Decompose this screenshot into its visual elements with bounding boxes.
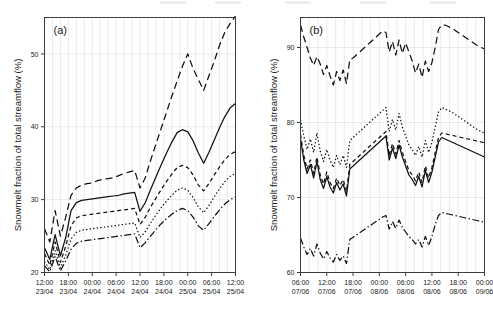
x-tick-label-date: 24/04 bbox=[107, 288, 125, 295]
x-tick-label-time: 00:00 bbox=[476, 279, 493, 286]
x-tick-label-date: 24/04 bbox=[131, 288, 149, 295]
x-tick-label-date: 25/04 bbox=[227, 288, 245, 295]
x-tick-label-time: 12:00 bbox=[36, 279, 54, 286]
y-tick-label: 70 bbox=[287, 194, 295, 201]
x-tick-label-time: 12:00 bbox=[318, 279, 336, 286]
x-tick-label-date: 24/04 bbox=[155, 288, 173, 295]
y-axis-title: Snowmelt fraction of total streamflow (%… bbox=[268, 59, 279, 232]
x-tick-label-date: 08/06 bbox=[449, 288, 467, 295]
panel-tag-b: (b) bbox=[310, 24, 323, 36]
x-tick-label-time: 06:00 bbox=[397, 279, 415, 286]
y-tick-label: 50 bbox=[31, 51, 39, 58]
x-tick-label-date: 24/04 bbox=[83, 288, 101, 295]
x-tick-label-time: 00:00 bbox=[371, 279, 389, 286]
x-tick-label-time: 18:00 bbox=[60, 279, 78, 286]
x-tick-label-time: 06:00 bbox=[203, 279, 221, 286]
x-tick-label-time: 18:00 bbox=[344, 279, 362, 286]
panel-tag-a: (a) bbox=[54, 24, 67, 36]
x-tick-label-date: 23/04 bbox=[36, 288, 54, 295]
y-tick-label: 60 bbox=[287, 269, 295, 276]
x-tick-label-date: 09/06 bbox=[476, 288, 493, 295]
x-tick-label-time: 12:00 bbox=[227, 279, 245, 286]
x-tick-label-date: 08/06 bbox=[371, 288, 389, 295]
y-tick-label: 20 bbox=[31, 269, 39, 276]
x-tick-label-date: 07/06 bbox=[292, 288, 310, 295]
y-tick-label: 80 bbox=[287, 119, 295, 126]
x-tick-label-time: 06:00 bbox=[292, 279, 310, 286]
x-tick-label-time: 18:00 bbox=[155, 279, 173, 286]
x-tick-label-date: 07/06 bbox=[344, 288, 362, 295]
two-panel-line-chart: 2030405012:0023/0418:0023/0400:0024/0406… bbox=[0, 0, 493, 314]
x-tick-label-time: 12:00 bbox=[423, 279, 441, 286]
x-tick-label-time: 12:00 bbox=[131, 279, 149, 286]
y-tick-label: 40 bbox=[31, 123, 39, 130]
x-tick-label-time: 00:00 bbox=[179, 279, 197, 286]
x-tick-label-date: 25/04 bbox=[203, 288, 221, 295]
x-tick-label-time: 18:00 bbox=[449, 279, 467, 286]
x-tick-label-date: 08/06 bbox=[397, 288, 415, 295]
y-axis-title: Snowmelt fraction of total streamflow (%… bbox=[12, 59, 23, 232]
y-tick-label: 30 bbox=[31, 196, 39, 203]
figure-background bbox=[0, 0, 493, 314]
y-tick-label: 90 bbox=[287, 44, 295, 51]
figure-root: 2030405012:0023/0418:0023/0400:0024/0406… bbox=[0, 0, 493, 314]
x-tick-label-date: 23/04 bbox=[60, 288, 78, 295]
x-tick-label-date: 07/06 bbox=[318, 288, 336, 295]
x-tick-label-time: 06:00 bbox=[107, 279, 125, 286]
x-tick-label-date: 25/04 bbox=[179, 288, 197, 295]
x-tick-label-time: 00:00 bbox=[83, 279, 101, 286]
x-tick-label-date: 08/06 bbox=[423, 288, 441, 295]
